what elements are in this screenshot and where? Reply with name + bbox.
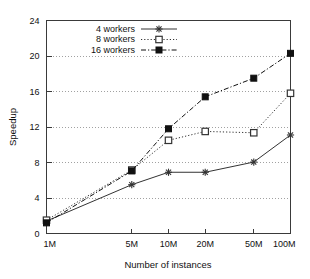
data-point-marker bbox=[165, 169, 172, 176]
y-tick-marks bbox=[47, 21, 52, 234]
speedup-line-chart: 04812162024 1M5M10M20M50M100M 4 workers8… bbox=[0, 0, 310, 279]
y-tick-label: 16 bbox=[29, 87, 39, 97]
chart-canvas: 04812162024 1M5M10M20M50M100M 4 workers8… bbox=[0, 0, 310, 279]
data-point-marker bbox=[251, 75, 257, 81]
chart-legend: 4 workers8 workers16 workers bbox=[57, 21, 181, 56]
series-line bbox=[47, 93, 291, 220]
x-tick-marks bbox=[47, 229, 291, 234]
x-tick-label: 5M bbox=[126, 239, 139, 249]
x-tick-label: 10M bbox=[160, 239, 178, 249]
y-tick-label: 24 bbox=[29, 16, 39, 26]
y-tick-label: 8 bbox=[34, 158, 39, 168]
data-point-marker bbox=[288, 50, 294, 56]
series-8-workers bbox=[43, 90, 293, 223]
series-4-workers bbox=[43, 131, 294, 224]
data-point-marker bbox=[251, 130, 257, 136]
y-tick-label: 0 bbox=[34, 229, 39, 239]
data-point-marker bbox=[166, 126, 172, 132]
data-point-marker bbox=[250, 158, 257, 165]
data-point-marker bbox=[156, 36, 162, 42]
x-tick-labels: 1M5M10M20M50M100M bbox=[44, 239, 296, 249]
x-axis-title: Number of instances bbox=[124, 259, 211, 270]
x-tick-label: 20M bbox=[196, 239, 214, 249]
data-point-marker bbox=[165, 137, 171, 143]
data-point-marker bbox=[202, 94, 208, 100]
series-line bbox=[47, 135, 291, 221]
x-tick-label: 1M bbox=[44, 239, 57, 249]
y-axis-title: Speedup bbox=[7, 108, 18, 146]
data-point-marker bbox=[44, 220, 50, 226]
y-tick-label: 12 bbox=[29, 122, 39, 132]
y-tick-labels: 04812162024 bbox=[29, 16, 39, 239]
data-point-marker bbox=[156, 47, 162, 53]
legend-label: 8 workers bbox=[96, 34, 136, 44]
y-tick-label: 20 bbox=[29, 51, 39, 61]
legend-label: 4 workers bbox=[96, 24, 136, 34]
data-point-marker bbox=[287, 90, 293, 96]
series-group bbox=[43, 50, 294, 226]
data-point-marker bbox=[129, 168, 135, 174]
x-tick-label: 100M bbox=[273, 239, 296, 249]
y-tick-label: 4 bbox=[34, 193, 39, 203]
data-point-marker bbox=[128, 181, 135, 188]
legend-label: 16 workers bbox=[91, 45, 136, 55]
x-tick-label: 50M bbox=[245, 239, 263, 249]
data-point-marker bbox=[202, 169, 209, 176]
data-point-marker bbox=[287, 131, 294, 138]
data-point-marker bbox=[202, 128, 208, 134]
data-point-marker bbox=[155, 25, 162, 32]
